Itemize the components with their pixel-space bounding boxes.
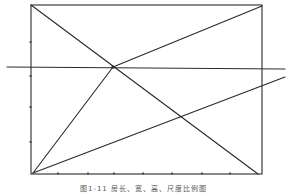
diagonal-top-left-to-bottom-right <box>31 5 258 174</box>
line-bottom-left-to-right-edge <box>33 77 285 173</box>
proportion-diagram <box>0 0 287 196</box>
line-intersection-to-top-right <box>113 6 262 67</box>
figure-caption: 图1-11 房长、宽、高、尺度比例图 <box>0 185 287 194</box>
horizontal-reference-line <box>7 67 285 69</box>
construction-lines <box>7 5 285 174</box>
upper-intersection <box>111 65 114 68</box>
lower-intersection <box>179 116 180 117</box>
line-bottom-left-to-intersection <box>33 67 113 173</box>
